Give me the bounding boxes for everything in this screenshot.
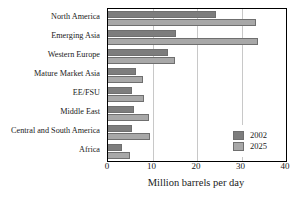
x-axis-tick-labels: 010203040 (107, 162, 285, 176)
x-tick-label: 40 (281, 162, 290, 171)
bar (108, 49, 168, 56)
bar (108, 114, 149, 121)
bar (108, 87, 132, 94)
category-axis: North AmericaEmerging AsiaWestern Europe… (0, 8, 104, 160)
bar (108, 133, 150, 140)
bar (108, 152, 130, 159)
category-label: North America (0, 8, 104, 27)
legend-item: 2025 (233, 142, 280, 151)
x-tick-label: 10 (147, 162, 156, 171)
bar (108, 125, 132, 132)
bar (108, 11, 216, 18)
bar (108, 95, 144, 102)
bar (108, 57, 175, 64)
x-tick-label: 30 (236, 162, 245, 171)
legend-swatch (233, 142, 244, 151)
category-label: Emerging Asia (0, 27, 104, 46)
category-label: Africa (0, 141, 104, 160)
bar-group (108, 104, 286, 123)
bar-chart: North AmericaEmerging AsiaWestern Europe… (0, 0, 295, 200)
bar (108, 38, 258, 45)
category-label: Mature Market Asia (0, 65, 104, 84)
x-axis-title: Million barrels per day (107, 178, 285, 189)
bar (108, 144, 122, 151)
category-label: Central and South America (0, 122, 104, 141)
bar-group (108, 85, 286, 104)
bar (108, 106, 134, 113)
bar (108, 68, 136, 75)
bar-group (108, 47, 286, 66)
x-tick-label: 0 (105, 162, 110, 171)
bar-group (108, 28, 286, 47)
bar (108, 76, 143, 83)
legend-item: 2002 (233, 131, 280, 140)
bar (108, 30, 176, 37)
category-label: Middle East (0, 103, 104, 122)
bar-group (108, 9, 286, 28)
chart-legend: 20022025 (229, 125, 283, 157)
bar (108, 19, 256, 26)
legend-label: 2025 (250, 142, 267, 151)
bar-group (108, 66, 286, 85)
legend-label: 2002 (250, 131, 267, 140)
category-label: Western Europe (0, 46, 104, 65)
category-label: EE/FSU (0, 84, 104, 103)
x-tick-label: 20 (192, 162, 201, 171)
legend-swatch (233, 131, 244, 140)
